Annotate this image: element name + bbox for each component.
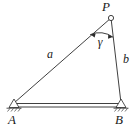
member-ab-bar xyxy=(14,104,121,108)
support-b xyxy=(114,99,129,112)
triangle-truss-svg: P A B a b γ xyxy=(0,0,139,129)
vertex-label-a: A xyxy=(7,112,16,127)
side-label-b: b xyxy=(123,52,129,66)
joint-p-circle xyxy=(108,15,113,20)
member-a-line xyxy=(14,18,111,103)
member-b-line xyxy=(111,18,121,103)
side-label-a: a xyxy=(47,47,53,61)
vertex-label-p: P xyxy=(101,0,110,14)
figure-canvas: P A B a b γ xyxy=(0,0,139,129)
support-a xyxy=(7,99,22,112)
angle-label-gamma: γ xyxy=(98,35,103,49)
vertex-label-b: B xyxy=(115,112,123,127)
